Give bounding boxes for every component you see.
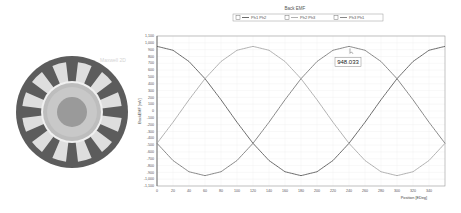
y-tick-label: -800 <box>147 164 154 168</box>
y-tick-label: -500 <box>147 143 154 147</box>
y-tick-label: -700 <box>147 157 154 161</box>
cursor-icon <box>350 48 353 54</box>
y-tick-label: 1,100 <box>145 34 154 38</box>
y-tick-label: 1,000 <box>145 41 154 45</box>
y-tick-label: -100 <box>147 116 154 120</box>
y-tick-label: -300 <box>147 130 154 134</box>
x-tick-label: 20 <box>171 189 175 193</box>
y-tick-label: -400 <box>147 136 154 140</box>
back-emf-chart: Back EMF Ph1 Ph2Ph2 Ph3Ph3 Ph1 -1,100-1,… <box>135 0 461 213</box>
y-tick-label: 600 <box>148 68 154 72</box>
y-tick-label: 900 <box>148 48 154 52</box>
y-tick-label: -1,100 <box>144 184 154 188</box>
value-tooltip: 948.033 <box>335 48 361 66</box>
x-tick-label: 120 <box>250 189 256 193</box>
x-tick-label: 200 <box>314 189 320 193</box>
motor-cross-section <box>0 0 150 213</box>
chart-title: Back EMF <box>285 6 306 11</box>
y-tick-label: 0 <box>152 109 154 113</box>
legend-label: Ph1 Ph2 <box>251 15 267 20</box>
chart-legend: Ph1 Ph2Ph2 Ph3Ph3 Ph1 <box>233 14 383 21</box>
shaft <box>57 97 87 127</box>
y-tick-label: 100 <box>148 102 154 106</box>
x-tick-label: 40 <box>187 189 191 193</box>
y-tick-label: 400 <box>148 82 154 86</box>
legend-checkbox[interactable] <box>334 16 338 20</box>
x-tick-label: 180 <box>298 189 304 193</box>
watermark-label: Maxwell 2D <box>100 57 126 63</box>
tooltip-value: 948.033 <box>337 59 359 65</box>
x-tick-label: 340 <box>426 189 432 193</box>
x-axis: 0204060801001201401601802002202402602803… <box>156 189 432 193</box>
x-tick-label: 140 <box>266 189 272 193</box>
x-tick-label: 320 <box>410 189 416 193</box>
x-axis-label: Position [EDeg] <box>401 196 427 200</box>
y-tick-label: 500 <box>148 75 154 79</box>
x-tick-label: 300 <box>394 189 400 193</box>
x-tick-label: 60 <box>203 189 207 193</box>
legend-label: Ph3 Ph1 <box>349 15 365 20</box>
y-tick-label: -1,000 <box>144 177 154 181</box>
y-tick-label: 800 <box>148 55 154 59</box>
x-tick-label: 220 <box>330 189 336 193</box>
y-tick-label: -900 <box>147 171 154 175</box>
x-tick-label: 100 <box>234 189 240 193</box>
legend-checkbox[interactable] <box>236 16 240 20</box>
x-tick-label: 80 <box>219 189 223 193</box>
y-tick-label: 200 <box>148 96 154 100</box>
x-tick-label: 0 <box>156 189 158 193</box>
x-tick-label: 280 <box>378 189 384 193</box>
chart-grid <box>157 36 445 186</box>
x-tick-label: 160 <box>282 189 288 193</box>
y-axis: -1,100-1,000-900-800-700-600-500-400-300… <box>144 34 157 188</box>
y-tick-label: -200 <box>147 123 154 127</box>
y-tick-label: -600 <box>147 150 154 154</box>
y-tick-label: 300 <box>148 89 154 93</box>
x-tick-label: 240 <box>346 189 352 193</box>
y-axis-label: BackEMF [mV] <box>138 98 142 123</box>
y-tick-label: 700 <box>148 61 154 65</box>
legend-checkbox[interactable] <box>285 16 289 20</box>
legend-label: Ph2 Ph3 <box>300 15 316 20</box>
x-tick-label: 260 <box>362 189 368 193</box>
